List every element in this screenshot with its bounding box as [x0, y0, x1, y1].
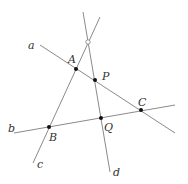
line-c [33, 17, 100, 163]
line-label-d: d [113, 166, 120, 179]
point-P-dot [93, 78, 97, 82]
point-A-dot [74, 67, 78, 71]
line-d [83, 12, 110, 172]
line-label-b: b [8, 122, 15, 135]
line-label-a: a [28, 39, 35, 52]
point-B-dot [47, 125, 51, 129]
open-intersection-dot [86, 40, 90, 44]
point-label-A: A [67, 53, 76, 66]
point-label-Q: Q [104, 121, 113, 134]
point-label-B: B [48, 131, 57, 144]
line-a [40, 45, 175, 133]
point-label-P: P [101, 70, 110, 83]
lines-layer [14, 12, 175, 172]
line-label-c: c [37, 158, 43, 171]
point-label-C: C [138, 96, 147, 109]
point-Q-dot [99, 116, 103, 120]
line-b [14, 105, 175, 133]
geometry-diagram: abcdAPCBQ [0, 0, 188, 184]
labels-layer: abcdAPCBQ [8, 39, 147, 179]
